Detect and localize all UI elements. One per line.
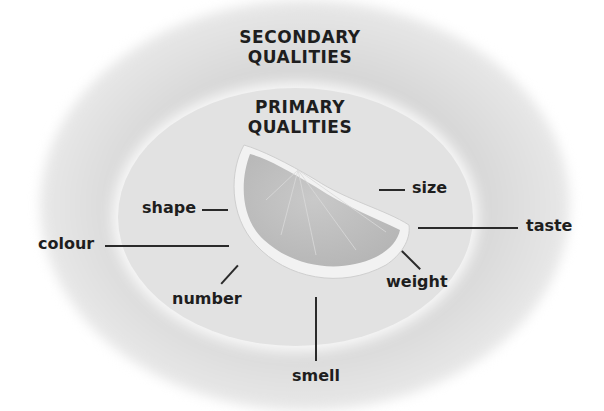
- label-size: size: [412, 179, 447, 197]
- label-weight: weight: [386, 273, 448, 291]
- primary-qualities-heading: PRIMARY QUALITIES: [235, 97, 365, 137]
- smell-connector: [316, 297, 318, 361]
- label-taste: taste: [526, 217, 572, 235]
- label-smell: smell: [292, 367, 340, 385]
- secondary-heading-line2: QUALITIES: [230, 47, 370, 67]
- primary-heading-line1: PRIMARY: [235, 97, 365, 117]
- primary-heading-line2: QUALITIES: [235, 117, 365, 137]
- label-number: number: [172, 290, 242, 308]
- taste-connector: [418, 227, 518, 229]
- secondary-qualities-heading: SECONDARY QUALITIES: [230, 27, 370, 67]
- label-shape: shape: [142, 199, 196, 217]
- size-connector: [379, 189, 405, 191]
- secondary-heading-line1: SECONDARY: [230, 27, 370, 47]
- label-colour: colour: [38, 235, 94, 253]
- colour-connector: [105, 245, 229, 247]
- orange-slice-image: [226, 140, 412, 290]
- shape-connector: [202, 209, 228, 211]
